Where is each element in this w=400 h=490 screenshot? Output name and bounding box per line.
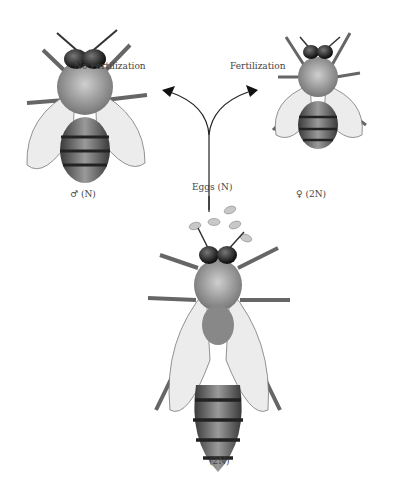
- label-worker-ploidy: ♀ (2N): [296, 189, 326, 199]
- arrowhead-left-icon: [162, 86, 175, 97]
- label-drone-ploidy: ♂ (N): [70, 189, 96, 199]
- drone-bee-illustration: [27, 30, 147, 183]
- arrowhead-right-icon: [246, 85, 258, 97]
- diagram-canvas: [0, 0, 400, 490]
- label-eggs: Eggs (N): [192, 182, 232, 192]
- branching-arrows: [162, 85, 258, 212]
- label-fertilization: Fertilization: [230, 61, 285, 71]
- label-no-fertilization: No Fertilization: [74, 61, 146, 71]
- eggs-cluster: [188, 205, 253, 244]
- worker-bee-illustration: [273, 33, 366, 149]
- queen-bee-illustration: [148, 228, 290, 472]
- label-queen-ploidy: (2N): [209, 456, 230, 466]
